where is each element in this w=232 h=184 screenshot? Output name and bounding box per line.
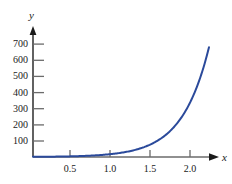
x-axis-arrowhead <box>209 153 219 161</box>
y-tick-label-700: 700 <box>0 39 28 49</box>
y-axis-ticks <box>33 44 44 141</box>
x-tick-label-1-5: 1.5 <box>135 164 165 174</box>
y-tick-label-400: 400 <box>0 88 28 98</box>
chart-canvas <box>0 0 232 184</box>
y-tick-label-200: 200 <box>0 120 28 130</box>
y-tick-label-100: 100 <box>0 136 28 146</box>
y-axis-label: y <box>29 10 34 21</box>
y-tick-label-500: 500 <box>0 71 28 81</box>
exponential-curve <box>33 47 209 157</box>
exponential-function-chart: 700 600 500 400 300 200 100 0.5 1.0 1.5 … <box>0 0 232 184</box>
y-axis-arrowhead <box>30 26 37 35</box>
x-tick-label-2-0: 2.0 <box>175 164 205 174</box>
x-tick-label-0-5: 0.5 <box>55 164 85 174</box>
x-tick-label-1-0: 1.0 <box>95 164 125 174</box>
y-tick-label-600: 600 <box>0 55 28 65</box>
y-tick-label-300: 300 <box>0 104 28 114</box>
x-axis-label: x <box>222 152 227 163</box>
